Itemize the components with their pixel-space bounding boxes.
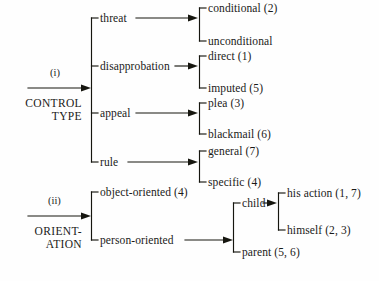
node-parent: parent (5, 6) [242,247,300,259]
node-child: child [242,198,266,210]
node-himself: himself (2, 3) [287,225,351,237]
taxonomy-diagram: (i) CONTROL TYPE threat conditional (2) … [0,0,379,281]
branch-i-roman: (i) [50,68,60,79]
branch-i-root-label: CONTROL TYPE [2,97,82,123]
branch-ii-root-line-2: ATION [2,238,82,251]
node-conditional: conditional (2) [208,3,278,15]
branch-i-root-line-1: CONTROL [2,97,82,110]
branch-ii-root-label: ORIENT- ATION [2,225,82,251]
node-rule: rule [100,157,118,169]
branch-ii-roman: (ii) [48,196,61,207]
branch-ii-root-line-1: ORIENT- [2,225,82,238]
node-imputed: imputed (5) [208,83,263,95]
node-object-oriented: object-oriented (4) [100,187,188,199]
node-disapprobation: disapprobation [100,61,170,73]
node-specific: specific (4) [208,177,261,189]
node-unconditional: unconditional [208,36,273,48]
branch-i-root-line-2: TYPE [2,110,82,123]
node-threat: threat [100,13,127,25]
node-direct: direct (1) [208,51,251,63]
node-person-oriented: person-oriented [100,235,174,247]
node-appeal: appeal [100,108,131,120]
node-plea: plea (3) [208,98,244,110]
node-his-action: his action (1, 7) [287,188,361,200]
node-blackmail: blackmail (6) [208,129,271,141]
node-general: general (7) [208,146,259,158]
